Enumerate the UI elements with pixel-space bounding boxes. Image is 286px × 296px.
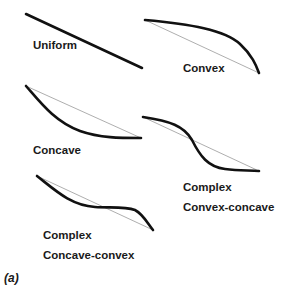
uniform-label: Uniform <box>33 40 77 52</box>
convex-concave-label-line2: Convex-concave <box>183 202 274 214</box>
convex-concave-label-line1: Complex <box>183 182 232 194</box>
concave-convex-reference-line <box>37 176 153 230</box>
concave-convex-label-line2: Concave-convex <box>43 250 134 262</box>
convex-label: Convex <box>183 63 225 75</box>
concave-convex-label-line1: Complex <box>43 230 92 242</box>
panel-label: (a) <box>4 272 19 284</box>
concave-label: Concave <box>33 145 81 157</box>
convex-concave-reference-line <box>143 117 259 171</box>
concave-reference-line <box>26 86 141 138</box>
